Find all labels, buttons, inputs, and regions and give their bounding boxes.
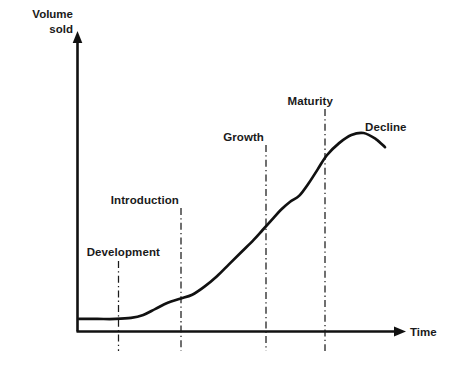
stage-label-decline: Decline	[365, 121, 407, 133]
y-axis-title-line2: sold	[49, 23, 73, 35]
y-axis-arrowhead	[73, 31, 83, 43]
chart-canvas: Volume sold Time Development Introductio…	[0, 0, 453, 367]
y-axis-title-line1: Volume	[32, 8, 73, 20]
stage-label-development: Development	[87, 246, 160, 258]
stage-label-introduction: Introduction	[111, 194, 179, 206]
lifecycle-curve	[79, 133, 385, 319]
stage-label-growth: Growth	[223, 131, 264, 143]
axis-group	[73, 31, 406, 337]
stage-dividers	[119, 109, 326, 351]
stage-label-maturity: Maturity	[287, 95, 333, 107]
x-axis-title: Time	[410, 326, 437, 338]
product-life-cycle-chart: Volume sold Time Development Introductio…	[0, 0, 453, 367]
x-axis-arrowhead	[394, 327, 406, 337]
curve-group	[79, 133, 385, 319]
